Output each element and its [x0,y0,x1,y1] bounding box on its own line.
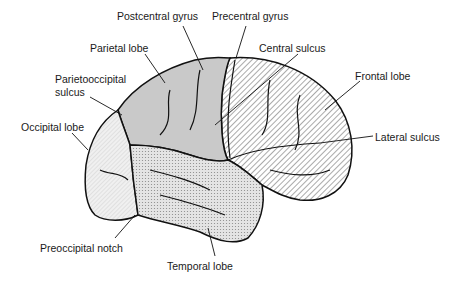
label-precentral-gyrus: Precentral gyrus [212,10,288,22]
brain-diagram: Postcentral gyrus Precentral gyrus Parie… [0,0,455,285]
label-postcentral-gyrus: Postcentral gyrus [117,10,198,22]
label-parietooccipital-sulcus-line2: sulcus [55,86,85,98]
label-parietal-lobe: Parietal lobe [90,42,148,54]
label-preoccipital-notch: Preoccipital notch [40,242,123,254]
label-temporal-lobe: Temporal lobe [167,260,233,272]
label-central-sulcus: Central sulcus [259,42,326,54]
label-lateral-sulcus: Lateral sulcus [375,131,440,143]
label-frontal-lobe: Frontal lobe [355,70,410,82]
label-parietooccipital-sulcus: Parietooccipital [55,73,126,85]
label-occipital-lobe: Occipital lobe [21,121,84,133]
